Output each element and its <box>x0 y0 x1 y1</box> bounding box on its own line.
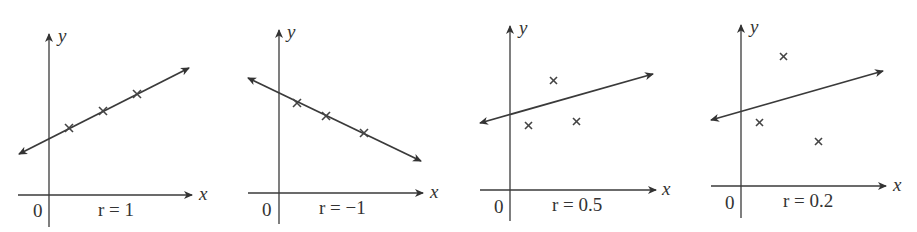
data-point <box>573 118 580 125</box>
data-point <box>780 53 787 60</box>
panel-r-minus-1: y x 0 r = −1 <box>248 21 439 224</box>
panel-r-0-2: y x 0 r = 0.2 <box>711 16 902 218</box>
r-label: r = −1 <box>319 197 366 218</box>
origin-label: 0 <box>725 192 735 213</box>
y-axis-label: y <box>285 21 296 42</box>
x-axis-label: x <box>198 183 208 204</box>
panel-r-1: y x 0 r = 1 <box>18 25 208 227</box>
x-axis-label: x <box>892 174 902 195</box>
r-label: r = 0.2 <box>783 190 833 211</box>
y-axis-label: y <box>748 16 759 37</box>
regression-line <box>480 74 653 123</box>
origin-label: 0 <box>494 196 504 217</box>
origin-label: 0 <box>33 200 43 221</box>
data-point <box>550 77 557 84</box>
origin-label: 0 <box>262 199 272 220</box>
panel-r-0-5: y x 0 r = 0.5 <box>480 17 671 221</box>
y-axis-label: y <box>517 17 528 38</box>
correlation-figure: y x 0 r = 1 y x 0 r = −1 y x 0 r = 0.5 <box>0 0 917 232</box>
x-axis-label: x <box>429 181 439 202</box>
data-point <box>133 90 141 98</box>
x-axis-label: x <box>661 178 671 199</box>
regression-line <box>248 78 421 161</box>
r-label: r = 0.5 <box>552 194 602 215</box>
data-point <box>815 138 822 145</box>
r-label: r = 1 <box>98 199 134 220</box>
y-axis-label: y <box>56 25 67 46</box>
regression-line <box>711 71 883 120</box>
data-point <box>756 119 763 126</box>
data-point <box>525 122 532 129</box>
